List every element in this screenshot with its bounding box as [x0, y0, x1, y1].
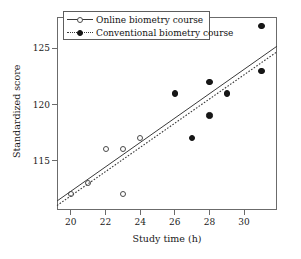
legend-entry-conventional: Conventional biometry course — [67, 27, 233, 38]
filled-circle-marker-icon — [77, 30, 83, 36]
data-point-online — [103, 146, 109, 152]
y-axis-title: Standardized score — [11, 64, 22, 157]
data-point-conventional — [258, 68, 265, 75]
legend-sample-online — [67, 15, 93, 24]
x-axis-title: Study time (h) — [129, 233, 205, 244]
data-point-conventional — [172, 90, 179, 97]
legend-entry-online: Online biometry course — [67, 14, 203, 25]
data-point-conventional — [206, 79, 213, 86]
scatter-plot-figure: 115120125 202224262830 Study time (h) St… — [0, 0, 301, 259]
trend-line-online — [57, 46, 277, 201]
legend-label-online: Online biometry course — [96, 15, 203, 25]
data-point-conventional — [224, 90, 231, 97]
legend-label-conventional: Conventional biometry course — [96, 28, 233, 38]
data-point-conventional — [258, 23, 265, 30]
open-circle-marker-icon — [77, 17, 83, 23]
legend-sample-conventional — [67, 28, 93, 37]
chart-legend: Online biometry course Conventional biom… — [63, 11, 210, 40]
data-point-conventional — [206, 112, 213, 119]
